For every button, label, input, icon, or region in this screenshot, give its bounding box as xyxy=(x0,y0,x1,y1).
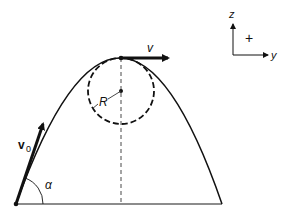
y-axis-label: y xyxy=(270,49,278,61)
coordinate-axes: z y + xyxy=(228,8,278,61)
radius-line xyxy=(108,91,121,99)
apex-velocity-label: v xyxy=(147,41,154,55)
launch-angle-label: α xyxy=(45,178,53,192)
launch-point-dot xyxy=(14,202,19,207)
initial-velocity-arrow xyxy=(16,124,43,204)
initial-velocity-label: v xyxy=(18,138,25,152)
positive-sign-label: + xyxy=(245,30,253,46)
radius-line-tail xyxy=(92,104,98,109)
projectile-diagram: R v v 0 α z y + xyxy=(0,0,289,216)
launch-angle-arc xyxy=(25,178,43,204)
initial-velocity-subscript: 0 xyxy=(26,144,31,154)
radius-label: R xyxy=(99,95,108,109)
z-axis-label: z xyxy=(228,8,235,20)
